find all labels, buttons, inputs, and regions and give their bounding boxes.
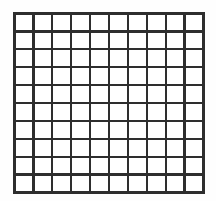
grid-cell [129, 176, 145, 191]
grid-cell [16, 68, 32, 83]
grid-cell [129, 15, 145, 30]
grid-cell [148, 104, 164, 119]
grid-cell [148, 15, 164, 30]
grid-cell [129, 50, 145, 65]
square-grid [13, 12, 205, 194]
grid-cell [53, 15, 69, 30]
grid-cell [148, 122, 164, 137]
grid-cell [16, 122, 32, 137]
grid-cell [16, 50, 32, 65]
grid-cell [53, 122, 69, 137]
grid-cell [16, 33, 32, 48]
grid-cell [167, 68, 183, 83]
grid-cell [35, 50, 51, 65]
grid-cell [91, 158, 107, 173]
grid-cell [72, 104, 88, 119]
grid-cell [91, 86, 107, 101]
grid-cell [186, 86, 202, 101]
grid-cell [91, 15, 107, 30]
grid-cell [53, 86, 69, 101]
grid-cell [16, 176, 32, 191]
grid-cell [91, 122, 107, 137]
grid-cell [129, 104, 145, 119]
grid-cell [110, 122, 126, 137]
grid-cell [148, 50, 164, 65]
grid-cell [129, 68, 145, 83]
grid-cell [186, 15, 202, 30]
grid-cell [72, 68, 88, 83]
grid-cell [91, 140, 107, 155]
grid-cell [35, 158, 51, 173]
grid-cell [91, 50, 107, 65]
grid-cell [110, 33, 126, 48]
grid-cell [35, 122, 51, 137]
grid-cell [110, 176, 126, 191]
grid-cell [91, 68, 107, 83]
grid-cell [16, 86, 32, 101]
grid-cell [129, 122, 145, 137]
grid-cell [167, 15, 183, 30]
grid-cell [148, 158, 164, 173]
grid-cell [148, 140, 164, 155]
grid-cell [148, 68, 164, 83]
grid-cell [186, 176, 202, 191]
grid-cell [72, 33, 88, 48]
grid-cell [129, 140, 145, 155]
grid-cell [110, 86, 126, 101]
grid-cell [167, 176, 183, 191]
grid-cell [72, 15, 88, 30]
grid-cell [91, 104, 107, 119]
grid-cell [72, 86, 88, 101]
grid-cell [167, 158, 183, 173]
grid-cell [53, 50, 69, 65]
grid-cell [16, 15, 32, 30]
grid-cell [72, 140, 88, 155]
grid-cell [53, 158, 69, 173]
grid-cell [110, 104, 126, 119]
grid-cell [110, 140, 126, 155]
grid-cell [110, 158, 126, 173]
grid-cell [110, 50, 126, 65]
grid-cell [167, 104, 183, 119]
grid-cell [129, 158, 145, 173]
grid-cell [186, 122, 202, 137]
grid-cell [167, 50, 183, 65]
grid-cell [16, 158, 32, 173]
grid-cell [53, 176, 69, 191]
image-canvas [0, 0, 216, 201]
grid-cell [167, 86, 183, 101]
grid-cell [35, 86, 51, 101]
grid-cell [186, 50, 202, 65]
grid-cell [53, 33, 69, 48]
grid-cell [186, 158, 202, 173]
grid-cell [72, 122, 88, 137]
grid-cell [110, 68, 126, 83]
grid-cell [53, 68, 69, 83]
grid-cell [35, 176, 51, 191]
grid-cell [35, 140, 51, 155]
grid-cell [129, 86, 145, 101]
grid-cell [35, 68, 51, 83]
grid-cell [148, 33, 164, 48]
grid-cell [53, 140, 69, 155]
grid-cell [16, 140, 32, 155]
grid-cell [72, 158, 88, 173]
grid-cell [91, 33, 107, 48]
grid-cell [110, 15, 126, 30]
grid-cell [16, 104, 32, 119]
grid-cell [35, 15, 51, 30]
grid-cell [186, 68, 202, 83]
grid-cell [35, 104, 51, 119]
grid-cell [167, 140, 183, 155]
grid-cell [91, 176, 107, 191]
grid-cell [186, 140, 202, 155]
grid-cell [167, 122, 183, 137]
grid-cell [148, 86, 164, 101]
grid-cell [186, 104, 202, 119]
grid-cell [53, 104, 69, 119]
grid-cell [72, 50, 88, 65]
grid-cell [35, 33, 51, 48]
grid-cell [167, 33, 183, 48]
grid-cell [72, 176, 88, 191]
grid-cell [129, 33, 145, 48]
